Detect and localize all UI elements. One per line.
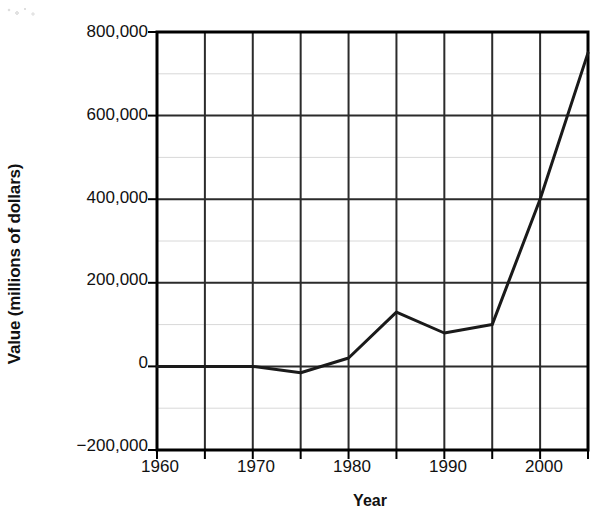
plot-area (0, 0, 614, 528)
chart-figure: Value (millions of dollars) 800,000 600,… (0, 0, 614, 528)
